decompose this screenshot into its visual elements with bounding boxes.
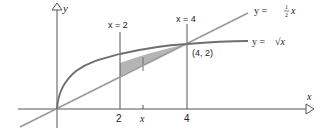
sqrt-label-expr: √x: [275, 36, 285, 47]
x-axis-label: x: [306, 91, 312, 102]
sqrt-label-prefix: y =: [252, 36, 266, 47]
tick-label-x: x: [139, 113, 145, 124]
half-line-frac-num: 1: [285, 4, 288, 10]
half-line-label-var: x: [290, 5, 296, 16]
x-axis-arrow-icon: [306, 104, 314, 114]
curve-sqrt-x: [57, 41, 248, 109]
half-line-frac-den: 2: [285, 12, 288, 18]
vline-x2-label: x = 2: [108, 20, 128, 30]
tick-label-2: 2: [116, 113, 122, 124]
y-axis-arrow-icon: [52, 3, 62, 10]
y-axis-label: y: [62, 2, 68, 14]
half-line-label-prefix: y =: [254, 5, 268, 16]
point-label: (4, 2): [192, 48, 213, 58]
diagram-figure: y x x = 2 x = 4 (4, 2) 2 x 4 y = 1 2 x y…: [0, 0, 328, 134]
vline-x4-label: x = 4: [176, 14, 196, 24]
line-half-x: [20, 13, 248, 127]
tick-label-4: 4: [184, 113, 190, 124]
